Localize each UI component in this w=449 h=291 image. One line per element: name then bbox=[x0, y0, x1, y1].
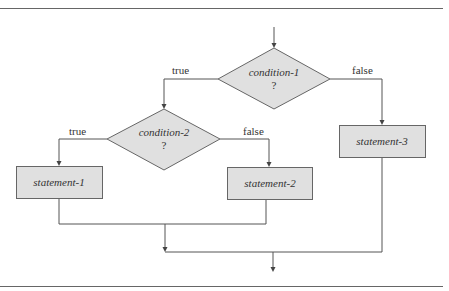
edge-condition-2-true bbox=[57, 139, 108, 166]
statement-1-label: statement-1 bbox=[33, 176, 84, 189]
condition-2-text: condition-2 bbox=[139, 126, 190, 139]
statement-3-label: statement-3 bbox=[356, 135, 407, 148]
condition-2-question: ? bbox=[139, 139, 190, 152]
condition-2-label: condition-2 ? bbox=[139, 126, 190, 152]
edge-label-condition-1-false: false bbox=[352, 64, 373, 76]
edge-label-condition-2-false: false bbox=[243, 125, 264, 137]
condition-1-text: condition-1 bbox=[249, 66, 300, 79]
statement-2-label: statement-2 bbox=[244, 177, 295, 190]
condition-1-label: condition-1 ? bbox=[249, 66, 300, 92]
condition-1-question: ? bbox=[249, 79, 300, 92]
edge-condition-1-true bbox=[162, 79, 219, 109]
entry-arrow bbox=[272, 27, 277, 48]
merge-inner bbox=[59, 199, 266, 252]
edge-label-condition-2-true: true bbox=[69, 125, 86, 137]
flowchart: true false true false condition-1 ? cond… bbox=[0, 0, 449, 291]
edge-condition-1-false bbox=[330, 79, 385, 125]
edge-label-condition-1-true: true bbox=[172, 64, 189, 76]
edge-condition-2-false bbox=[220, 139, 272, 167]
